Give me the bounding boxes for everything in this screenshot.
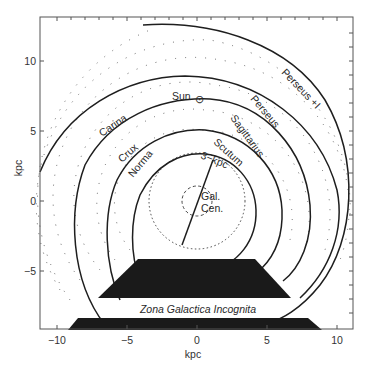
galaxy-map: −10 −5 0 5 10 10 5 0 −5 kpc kpc Perseus … xyxy=(0,0,369,370)
sun-symbol-icon: ⊙ xyxy=(195,93,204,105)
x-tick-label: −10 xyxy=(48,334,66,346)
y-tick-label: 10 xyxy=(24,55,36,67)
y-tick-label: 5 xyxy=(30,125,36,137)
label-sun: Sun xyxy=(172,90,191,102)
zone-lower-block xyxy=(68,318,322,330)
y-axis-label: kpc xyxy=(12,160,24,176)
label-carina: Carina xyxy=(96,111,128,138)
x-axis-label: kpc xyxy=(185,348,201,360)
x-tick-label: 5 xyxy=(264,334,270,346)
x-tick-label: 0 xyxy=(194,334,200,346)
label-cen: Cen. xyxy=(201,202,223,214)
x-tick-label: 10 xyxy=(331,334,343,346)
3kpc-dotted-ring xyxy=(149,153,245,249)
x-tick-label: −5 xyxy=(121,334,133,346)
zone-upper-block xyxy=(98,259,291,298)
label-zona-galactica-incognita: Zona Galactica Incognita xyxy=(139,303,256,315)
y-tick-label: 0 xyxy=(30,195,36,207)
label-gal: Gal. xyxy=(201,190,220,202)
y-tick-label: −5 xyxy=(24,265,36,277)
